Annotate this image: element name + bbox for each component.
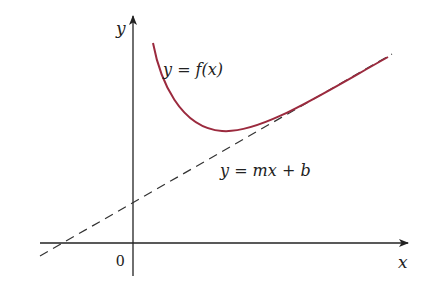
asymptote-diagram: y x 0 y = f(x) y = mx + b — [0, 0, 444, 298]
function-curve — [153, 43, 388, 131]
diagram-canvas: y x 0 y = f(x) y = mx + b — [0, 0, 444, 298]
y-axis-label: y — [115, 18, 126, 38]
x-axis-label: x — [398, 252, 408, 272]
curve-label: y = f(x) — [162, 60, 223, 79]
asymptote-label: y = mx + b — [219, 161, 311, 180]
origin-label: 0 — [116, 251, 125, 270]
